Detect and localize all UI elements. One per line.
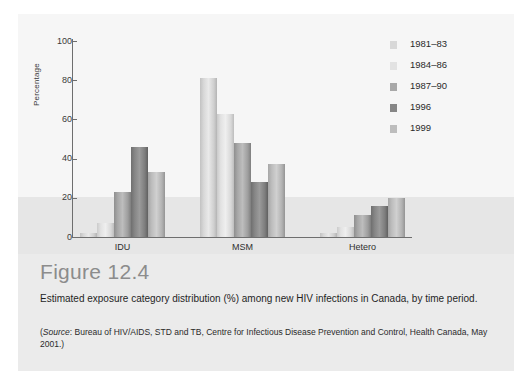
bar xyxy=(200,78,217,237)
figure-description: Estimated exposure category distribution… xyxy=(40,292,492,306)
caption-area: Figure 12.4 Estimated exposure category … xyxy=(18,254,514,371)
x-axis-category-label: IDU xyxy=(93,242,153,252)
bar xyxy=(268,164,285,237)
legend-item[interactable]: 1987–90 xyxy=(390,78,500,99)
bar-fill xyxy=(371,206,388,237)
legend-swatch-icon xyxy=(390,41,397,49)
legend-swatch-icon xyxy=(390,83,397,91)
source-body-text: : Bureau of HIV/AIDS, STD and TB, Centre… xyxy=(40,327,487,349)
bar-fill xyxy=(80,233,97,237)
bar-fill xyxy=(114,192,131,237)
bar-fill xyxy=(320,233,337,237)
x-axis-category-label: Hetero xyxy=(333,242,393,252)
legend-label: 1999 xyxy=(410,122,431,133)
bar xyxy=(217,114,234,237)
bar xyxy=(371,206,388,237)
bar xyxy=(131,147,148,237)
bar-fill xyxy=(388,198,405,237)
legend-label: 1984–86 xyxy=(410,59,447,70)
legend-label: 1996 xyxy=(410,101,431,112)
bar xyxy=(388,198,405,237)
chart-legend: 1981–831984–861987–9019961999 xyxy=(390,36,500,141)
legend-swatch-icon xyxy=(390,104,397,112)
bar-fill xyxy=(234,143,251,237)
bar-fill xyxy=(97,223,114,237)
bar xyxy=(148,172,165,237)
bar xyxy=(80,233,97,237)
bar xyxy=(354,215,371,237)
figure-number: Figure 12.4 xyxy=(40,260,150,284)
bar xyxy=(97,223,114,237)
legend-swatch-icon xyxy=(390,125,397,133)
bar xyxy=(337,227,354,237)
bar-fill xyxy=(251,182,268,237)
figure-card: Percentage 020406080100 IDUMSMHetero 198… xyxy=(18,14,514,371)
bar-fill xyxy=(217,114,234,237)
legend-item[interactable]: 1999 xyxy=(390,120,500,141)
bar-fill xyxy=(337,227,354,237)
legend-label: 1981–83 xyxy=(410,38,447,49)
legend-item[interactable]: 1996 xyxy=(390,99,500,120)
figure-source: (Source: Bureau of HIV/AIDS, STD and TB,… xyxy=(40,326,500,350)
source-italic-label: Source xyxy=(43,327,70,337)
bar xyxy=(251,182,268,237)
bar-fill xyxy=(354,215,371,237)
chart-panel: Percentage 020406080100 IDUMSMHetero 198… xyxy=(18,14,514,254)
bar xyxy=(114,192,131,237)
bar-fill xyxy=(200,78,217,237)
bar-fill xyxy=(268,164,285,237)
bar xyxy=(320,233,337,237)
legend-item[interactable]: 1981–83 xyxy=(390,36,500,57)
x-axis-category-label: MSM xyxy=(213,242,273,252)
legend-swatch-icon xyxy=(390,62,397,70)
bar-fill xyxy=(148,172,165,237)
bar-fill xyxy=(131,147,148,237)
legend-item[interactable]: 1984–86 xyxy=(390,57,500,78)
bar xyxy=(234,143,251,237)
legend-label: 1987–90 xyxy=(410,80,447,91)
